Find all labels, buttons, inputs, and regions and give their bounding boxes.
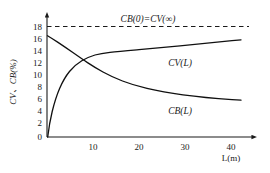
x-tick-label-30: 30 — [181, 142, 191, 152]
y-tick-label-8: 8 — [38, 82, 43, 92]
chart-figure: 18 16 14 12 10 8 6 4 2 0 10 20 30 40 L(m… — [0, 0, 270, 173]
y-axis-title: CV、CB(%) — [8, 59, 18, 105]
y-tick-label-14: 14 — [33, 46, 43, 56]
y-tick-label-2: 2 — [38, 118, 43, 128]
y-tick-label-18: 18 — [33, 22, 43, 32]
y-tick-label-10: 10 — [33, 70, 43, 80]
x-tick-label-10: 10 — [89, 142, 99, 152]
curve-label-cb: CB(L) — [168, 106, 192, 117]
y-tick-label-6: 6 — [38, 94, 43, 104]
y-tick-label-4: 4 — [38, 106, 43, 116]
asymptote-annotation-label: CB(0)=CV(∞) — [121, 14, 176, 25]
chart-plot-area: 18 16 14 12 10 8 6 4 2 0 10 20 30 40 L(m… — [0, 0, 270, 173]
y-tick-label-12: 12 — [33, 58, 42, 68]
x-axis-title: L(m) — [222, 153, 241, 163]
x-tick-label-20: 20 — [135, 142, 145, 152]
x-tick-label-40: 40 — [227, 142, 237, 152]
curve-label-cv: CV(L) — [168, 58, 192, 69]
y-tick-label-0: 0 — [38, 132, 43, 142]
curve-cb — [48, 36, 242, 100]
y-tick-label-16: 16 — [33, 34, 43, 44]
